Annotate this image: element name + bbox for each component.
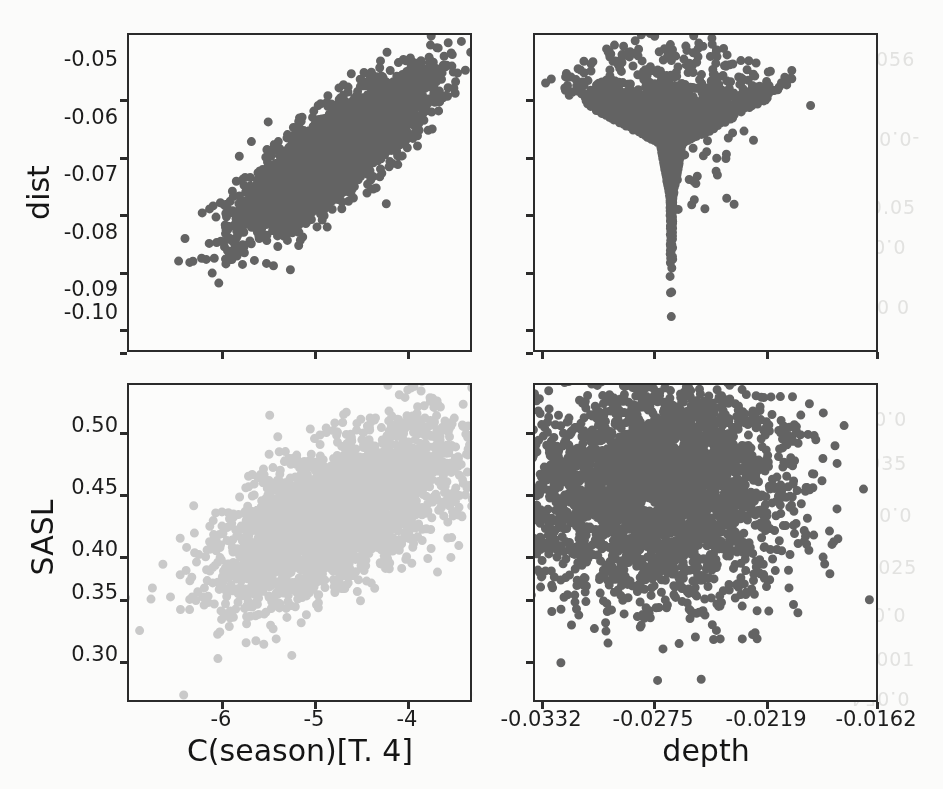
y-tick-mark-sasl-2 xyxy=(120,556,127,559)
y-tick-dist-4: -0.09 xyxy=(20,277,118,301)
y-tick-dist-2: -0.07 xyxy=(20,162,118,186)
scatter-layer xyxy=(535,385,876,700)
x-tick-mark-depth-0-3 xyxy=(876,352,879,359)
scatter-layer xyxy=(129,35,470,350)
x-axis-title-season: C(season)[T. 4] xyxy=(187,733,413,768)
y-tick-dist-0: -0.05 xyxy=(20,47,118,71)
x-tick-mark-season-0-2 xyxy=(407,352,410,359)
y-tick-mark-dist-3 xyxy=(120,272,127,275)
y-tick-sasl-4: 0.30 xyxy=(20,642,118,666)
panel-sasl-vs-season[interactable] xyxy=(127,383,472,702)
scatter-points xyxy=(541,35,815,321)
y-tick-mark-r0-4 xyxy=(526,329,533,332)
x-tick-mark-season-1-2 xyxy=(407,702,410,709)
y-tick-sasl-1: 0.45 xyxy=(20,475,118,499)
y-tick-dist-3: -0.08 xyxy=(20,220,118,244)
y-tick-mark-sasl-4 xyxy=(120,661,127,664)
x-tick-mark-season-1-1 xyxy=(314,702,317,709)
x-tick-mark-season-1-0 xyxy=(221,702,224,709)
x-tick-season-1: -5 xyxy=(304,707,325,731)
y-tick-mark-r0-0 xyxy=(526,99,533,102)
y-tick-mark-r1-4 xyxy=(526,661,533,664)
scatter-layer xyxy=(129,385,470,700)
x-tick-depth-3: -0.0162 xyxy=(835,707,916,731)
x-tick-mark-depth-0-1 xyxy=(653,352,656,359)
y-tick-mark-r1-0 xyxy=(526,432,533,435)
y-tick-mark-r0-3 xyxy=(526,272,533,275)
y-tick-mark-dist-4 xyxy=(120,329,127,332)
x-tick-season-0: -6 xyxy=(211,707,232,731)
x-tick-mark-season-0-1 xyxy=(314,352,317,359)
x-tick-mark-depth-0-2 xyxy=(766,352,769,359)
y-tick-mark-r1-2 xyxy=(526,556,533,559)
y-tick-mark-dist-1 xyxy=(120,157,127,160)
panel-dist-vs-season[interactable] xyxy=(127,33,472,352)
y-tick-sasl-3: 0.35 xyxy=(20,580,118,604)
y-tick-sasl-2: 0.40 xyxy=(20,537,118,561)
x-tick-mark-depth-0-0 xyxy=(541,352,544,359)
x-axis-title-depth: depth xyxy=(662,733,749,768)
y-tick-sasl-0: 0.50 xyxy=(20,413,118,437)
y-tick-mark-r1-3 xyxy=(526,599,533,602)
x-tick-mark-depth-1-0 xyxy=(541,702,544,709)
panel-sasl-vs-depth[interactable] xyxy=(533,383,878,702)
y-tick-mark-dist-5 xyxy=(120,352,127,355)
y-tick-dist-5: -0.10 xyxy=(20,300,118,324)
x-tick-mark-season-0-0 xyxy=(221,352,224,359)
figure-canvas: -0.056-0.080-0.050.045-20 00.050.0350.00… xyxy=(0,0,943,789)
y-tick-mark-r1-1 xyxy=(526,494,533,497)
x-tick-depth-0: -0.0332 xyxy=(500,707,581,731)
scatter-points xyxy=(129,385,470,700)
y-tick-mark-sasl-0 xyxy=(120,432,127,435)
x-tick-mark-depth-1-2 xyxy=(766,702,769,709)
y-tick-mark-dist-0 xyxy=(120,99,127,102)
panel-dist-vs-depth[interactable] xyxy=(533,33,878,352)
scatter-layer xyxy=(535,35,876,350)
y-tick-mark-dist-2 xyxy=(120,214,127,217)
scatter-points xyxy=(174,35,470,288)
y-tick-mark-sasl-3 xyxy=(120,599,127,602)
scatter-points xyxy=(535,385,874,685)
y-tick-mark-sasl-1 xyxy=(120,494,127,497)
x-tick-mark-depth-1-1 xyxy=(653,702,656,709)
y-tick-mark-r0-5 xyxy=(526,352,533,355)
y-tick-mark-r0-1 xyxy=(526,157,533,160)
x-tick-depth-1: -0.0275 xyxy=(612,707,693,731)
y-tick-dist-1: -0.06 xyxy=(20,105,118,129)
x-tick-depth-2: -0.0219 xyxy=(725,707,806,731)
x-tick-season-2: -4 xyxy=(397,707,418,731)
y-tick-mark-r0-2 xyxy=(526,214,533,217)
x-tick-mark-depth-1-3 xyxy=(876,702,879,709)
